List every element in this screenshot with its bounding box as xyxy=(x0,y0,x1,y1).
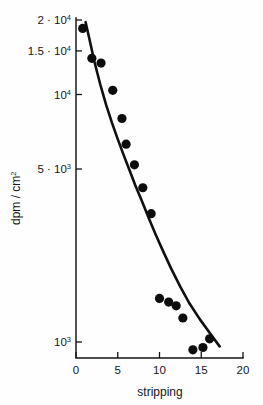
tick-mantissa: 5 · xyxy=(37,163,54,175)
x-tick-label: 0 xyxy=(73,364,79,376)
tick-exponent: 4 xyxy=(67,88,71,97)
tick-exponent: 3 xyxy=(67,335,71,344)
y-axis-title-text: dpm / cm xyxy=(9,176,23,225)
tick-mantissa: 1.5 · xyxy=(28,45,54,57)
tick-base: 10 xyxy=(54,89,67,101)
y-tick-label: 2 · 104 xyxy=(37,13,71,26)
tick-base: 10 xyxy=(54,336,67,348)
axis-lines xyxy=(76,18,243,358)
tick-exponent: 3 xyxy=(67,162,71,171)
fitted-curve xyxy=(86,22,220,346)
data-point xyxy=(198,343,207,352)
data-point xyxy=(87,54,96,63)
data-point xyxy=(117,114,126,123)
x-tick-label: 10 xyxy=(153,364,166,376)
y-axis-title-exponent: 2 xyxy=(9,171,18,175)
data-point xyxy=(155,294,164,303)
data-point xyxy=(108,86,117,95)
x-tick-label: 5 xyxy=(115,364,121,376)
x-axis-tick-labels: 05101520 xyxy=(73,364,250,376)
data-point xyxy=(138,183,147,192)
x-tick-label: 15 xyxy=(195,364,208,376)
y-tickmarks xyxy=(76,20,82,342)
tick-exponent: 4 xyxy=(67,44,71,53)
tick-base: 10 xyxy=(54,45,67,57)
data-point xyxy=(178,313,187,322)
scatter-plot: 2 · 1041.5 · 1041045 · 103103 05101520 d… xyxy=(0,0,263,405)
tick-base: 10 xyxy=(54,163,67,175)
y-tick-label: 103 xyxy=(54,335,71,348)
y-axis-tick-labels: 2 · 1041.5 · 1041045 · 103103 xyxy=(28,13,71,348)
data-point xyxy=(205,334,214,343)
y-tick-label: 104 xyxy=(54,88,71,101)
tick-exponent: 4 xyxy=(67,13,71,22)
axes-group xyxy=(76,18,243,358)
data-point xyxy=(130,160,139,169)
y-axis-title-group: dpm / cm2 xyxy=(9,171,23,225)
y-axis-title: dpm / cm2 xyxy=(9,171,23,225)
data-point xyxy=(147,209,156,218)
figure-container: 2 · 1041.5 · 1041045 · 103103 05101520 d… xyxy=(0,0,263,405)
data-point xyxy=(78,24,87,33)
y-tick-label: 5 · 103 xyxy=(37,162,71,175)
data-point xyxy=(172,301,181,310)
data-point xyxy=(122,140,131,149)
tick-base: 10 xyxy=(54,14,67,26)
tick-mantissa: 2 · xyxy=(37,14,54,26)
x-axis-title: stripping xyxy=(137,385,182,399)
data-point xyxy=(188,345,197,354)
y-tick-label: 1.5 · 104 xyxy=(28,44,71,57)
data-point xyxy=(96,58,105,67)
x-tickmarks xyxy=(76,352,243,358)
x-tick-label: 20 xyxy=(237,364,250,376)
